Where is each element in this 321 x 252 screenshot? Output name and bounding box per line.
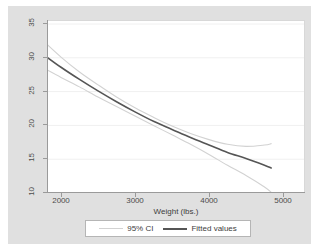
- ci-lower-curve: [48, 68, 271, 192]
- series-path: [48, 54, 271, 168]
- y-tick-mark: [43, 124, 47, 125]
- series-path: [48, 41, 271, 146]
- chart-screenshot: 101520253035 2000300040005000 Weight (lb…: [0, 0, 321, 252]
- ci-upper-curve: [48, 41, 271, 146]
- y-tick-mark: [43, 91, 47, 92]
- legend-entry-fitted: Fitted values: [163, 224, 236, 233]
- series-path: [48, 68, 271, 192]
- legend-swatch-fitted-icon: [163, 228, 187, 230]
- chart-legend: 95% CI Fitted values: [85, 220, 251, 237]
- fitted-values-curve: [48, 54, 271, 168]
- x-tick-label: 3000: [118, 196, 152, 205]
- plot-svg: [48, 21, 304, 193]
- y-tick-mark: [43, 57, 47, 58]
- legend-label-ci: 95% CI: [127, 224, 153, 233]
- graph-region: 101520253035 2000300040005000 Weight (lb…: [8, 6, 311, 244]
- x-tick-label: 2000: [44, 196, 78, 205]
- y-tick-label: 30: [27, 46, 36, 66]
- y-tick-mark: [43, 23, 47, 24]
- y-tick-label: 25: [27, 80, 36, 100]
- x-axis-title: Weight (lbs.): [48, 207, 304, 216]
- legend-label-fitted: Fitted values: [191, 224, 236, 233]
- legend-swatch-ci-icon: [99, 228, 123, 229]
- x-tick-label: 5000: [266, 196, 300, 205]
- y-tick-label: 10: [27, 182, 36, 202]
- y-axis-line: [47, 20, 48, 193]
- y-tick-mark: [43, 192, 47, 193]
- plot-region: [48, 20, 305, 193]
- y-tick-label: 20: [27, 114, 36, 134]
- gridlines: [48, 24, 304, 193]
- x-axis-line: [47, 192, 305, 193]
- y-tick-mark: [43, 158, 47, 159]
- x-tick-label: 4000: [192, 196, 226, 205]
- y-tick-label: 35: [27, 13, 36, 33]
- legend-entry-ci: 95% CI: [99, 224, 153, 233]
- y-tick-label: 15: [27, 148, 36, 168]
